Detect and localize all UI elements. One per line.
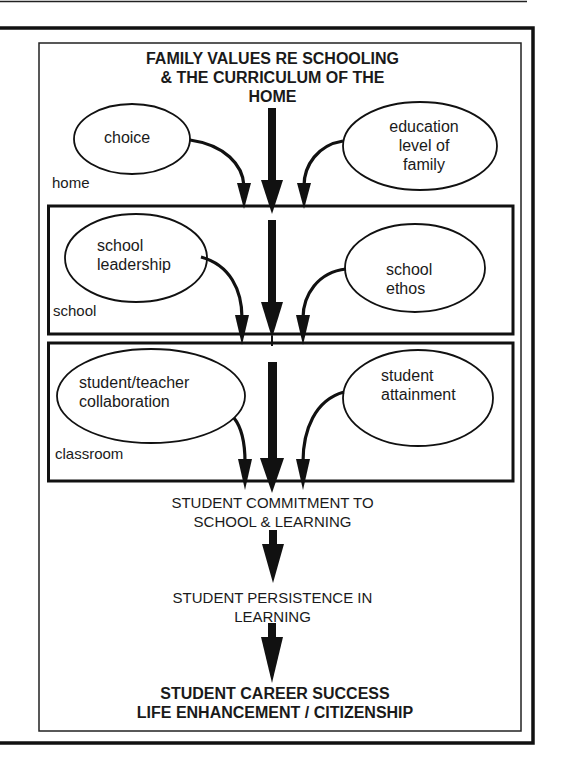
- education-level-label: education level of family: [364, 117, 484, 174]
- student-attainment-label: student attainment: [381, 366, 456, 404]
- title-line-1: FAMILY VALUES RE SCHOOLING: [90, 49, 455, 68]
- central-arrow-school: [261, 220, 283, 338]
- commitment-line-2: SCHOOL & LEARNING: [130, 512, 415, 531]
- education-level-line-2: level of: [364, 136, 484, 155]
- commitment-line-1: STUDENT COMMITMENT TO: [130, 493, 415, 512]
- attainment-line-1: student: [381, 366, 456, 385]
- arrow-persistence-to-career: [261, 623, 283, 683]
- outcome-career: STUDENT CAREER SUCCESS LIFE ENHANCEMENT …: [90, 684, 460, 722]
- classroom-zone-label: classroom: [55, 446, 123, 463]
- school-leadership-label: school leadership: [97, 236, 171, 274]
- school-ethos-label: school ethos: [386, 260, 432, 298]
- collaboration-line-2: collaboration: [79, 392, 189, 411]
- school-ethos-line-2: ethos: [386, 279, 432, 298]
- school-leadership-line-2: leadership: [97, 255, 171, 274]
- school-ethos-line-1: school: [386, 260, 432, 279]
- central-arrow-classroom: [260, 362, 284, 493]
- collaboration-curve-arrow: [234, 418, 252, 490]
- education-curve-arrow: [297, 141, 343, 209]
- persistence-line-1: STUDENT PERSISTENCE IN: [130, 588, 415, 607]
- career-line-1: STUDENT CAREER SUCCESS: [90, 684, 460, 703]
- choice-label: choice: [104, 128, 150, 147]
- attainment-line-2: attainment: [381, 385, 456, 404]
- title-line-2: & THE CURRICULUM OF THE: [90, 68, 455, 87]
- school-leadership-line-1: school: [97, 236, 171, 255]
- outcome-persistence: STUDENT PERSISTENCE IN LEARNING: [130, 588, 415, 626]
- career-line-2: LIFE ENHANCEMENT / CITIZENSHIP: [90, 703, 460, 722]
- title-line-3: HOME: [90, 87, 455, 106]
- education-level-line-3: family: [364, 155, 484, 174]
- school-zone-label: school: [53, 303, 96, 320]
- attainment-curve-arrow: [296, 392, 344, 490]
- central-arrow-home: [261, 108, 283, 214]
- education-level-line-1: education: [364, 117, 484, 136]
- home-zone-label: home: [52, 175, 90, 192]
- outcome-commitment: STUDENT COMMITMENT TO SCHOOL & LEARNING: [130, 493, 415, 531]
- collaboration-line-1: student/teacher: [79, 373, 189, 392]
- arrow-commitment-to-persistence: [262, 530, 284, 583]
- persistence-line-2: LEARNING: [130, 607, 415, 626]
- diagram-title: FAMILY VALUES RE SCHOOLING & THE CURRICU…: [90, 49, 455, 106]
- choice-curve-arrow: [190, 140, 251, 209]
- school-leadership-curve-arrow: [201, 257, 249, 345]
- student-teacher-collaboration-label: student/teacher collaboration: [79, 373, 189, 411]
